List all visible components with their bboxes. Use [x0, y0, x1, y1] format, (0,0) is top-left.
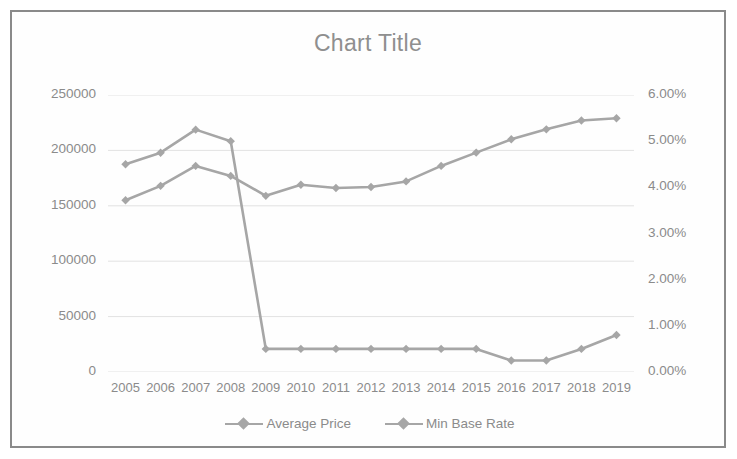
- legend-label: Min Base Rate: [426, 416, 515, 431]
- y-left-tick-label: 100000: [12, 252, 96, 267]
- data-point-marker[interactable]: [437, 162, 445, 170]
- data-point-marker[interactable]: [472, 345, 480, 353]
- data-point-marker[interactable]: [612, 114, 620, 122]
- data-point-marker[interactable]: [332, 345, 340, 353]
- x-tick-label: 2006: [143, 380, 178, 395]
- plot-area: [108, 95, 634, 372]
- chart-frame: Chart Title 0500001000001500002000002500…: [10, 10, 726, 448]
- data-point-marker[interactable]: [227, 137, 235, 145]
- x-tick-label: 2013: [389, 380, 424, 395]
- data-point-marker[interactable]: [297, 345, 305, 353]
- data-point-marker[interactable]: [577, 116, 585, 124]
- data-point-marker[interactable]: [367, 345, 375, 353]
- x-tick-label: 2009: [248, 380, 283, 395]
- data-point-marker[interactable]: [612, 331, 620, 339]
- data-point-marker[interactable]: [121, 196, 129, 204]
- chart-title[interactable]: Chart Title: [12, 30, 724, 57]
- x-tick-label: 2017: [529, 380, 564, 395]
- x-tick-label: 2015: [459, 380, 494, 395]
- data-point-marker[interactable]: [507, 356, 515, 364]
- y-right-tick-label: 2.00%: [648, 271, 686, 286]
- data-point-marker[interactable]: [402, 345, 410, 353]
- data-point-marker[interactable]: [121, 160, 129, 168]
- legend-line-marker-icon: [385, 418, 423, 430]
- y-left-tick-label: 150000: [12, 197, 96, 212]
- legend-line-marker-icon: [225, 418, 263, 430]
- y-right-tick-label: 4.00%: [648, 178, 686, 193]
- data-point-marker[interactable]: [332, 184, 340, 192]
- y-left-tick-label: 250000: [12, 86, 96, 101]
- x-tick-label: 2018: [564, 380, 599, 395]
- x-tick-label: 2005: [108, 380, 143, 395]
- data-point-marker[interactable]: [472, 148, 480, 156]
- x-tick-label: 2011: [318, 380, 353, 395]
- series-line[interactable]: [126, 130, 617, 361]
- plot-svg: [108, 95, 634, 372]
- chart-legend: Average PriceMin Base Rate: [12, 416, 728, 431]
- y-left-tick-label: 50000: [12, 308, 96, 323]
- x-tick-label: 2014: [424, 380, 459, 395]
- x-tick-label: 2012: [353, 380, 388, 395]
- y-left-tick-label: 0: [12, 363, 96, 378]
- data-point-marker[interactable]: [297, 181, 305, 189]
- y-right-tick-label: 0.00%: [648, 363, 686, 378]
- y-right-tick-label: 5.00%: [648, 132, 686, 147]
- x-tick-label: 2008: [213, 380, 248, 395]
- y-right-tick-label: 6.00%: [648, 86, 686, 101]
- data-point-marker[interactable]: [437, 345, 445, 353]
- legend-label: Average Price: [266, 416, 351, 431]
- data-point-marker[interactable]: [577, 345, 585, 353]
- data-point-marker[interactable]: [507, 135, 515, 143]
- data-point-marker[interactable]: [262, 345, 270, 353]
- series-2[interactable]: [121, 125, 620, 364]
- data-point-marker[interactable]: [367, 183, 375, 191]
- data-point-marker[interactable]: [542, 356, 550, 364]
- chart-screenshot: Chart Title 0500001000001500002000002500…: [0, 0, 737, 459]
- y-left-tick-label: 200000: [12, 141, 96, 156]
- x-tick-label: 2010: [283, 380, 318, 395]
- x-tick-label: 2016: [494, 380, 529, 395]
- data-point-marker[interactable]: [542, 125, 550, 133]
- x-tick-label: 2019: [599, 380, 634, 395]
- data-point-marker[interactable]: [402, 177, 410, 185]
- x-tick-label: 2007: [178, 380, 213, 395]
- legend-item[interactable]: Average Price: [225, 416, 351, 431]
- y-right-tick-label: 1.00%: [648, 317, 686, 332]
- y-right-tick-label: 3.00%: [648, 225, 686, 240]
- legend-item[interactable]: Min Base Rate: [385, 416, 515, 431]
